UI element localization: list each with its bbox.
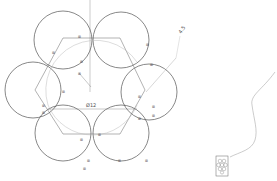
relation-tag[interactable]: ⊞ [87, 159, 90, 163]
spline-curve[interactable] [230, 72, 275, 157]
relation-tag[interactable]: ⊞ [146, 43, 149, 47]
circle-top-left[interactable] [34, 11, 92, 69]
diameter-dimension-label[interactable]: Ø12 [86, 102, 96, 108]
pattern-thumbnail[interactable] [216, 156, 228, 176]
circle-right[interactable] [121, 64, 177, 120]
offset-dimension-label[interactable]: 4.5 [177, 25, 186, 35]
relation-tag[interactable]: ⊞ [118, 159, 121, 163]
relation-tags: ⊞ ⊞ ⊞ ⊞ ⊞ ⊞ ⊞ ⊞ ⊞ ⊞ ⊞ ⊞ ⊞ ⊞ ⊞ ⊞ ⊞ ⊞ ⊞ [42, 35, 155, 171]
relation-tag[interactable]: ⊞ [42, 111, 45, 115]
sketch-canvas[interactable]: Ø12 4.5 ⊞ ⊞ ⊞ ⊞ ⊞ ⊞ ⊞ ⊞ ⊞ ⊞ ⊞ ⊞ ⊞ ⊞ ⊞ ⊞ … [0, 0, 277, 181]
relation-tag[interactable]: ⊞ [152, 105, 155, 109]
construction-arc-lower [48, 105, 137, 135]
relation-tag[interactable]: ⊞ [145, 159, 148, 163]
relation-tag[interactable]: ⊞ [98, 133, 101, 137]
relation-tag[interactable]: ⊞ [78, 35, 81, 39]
relation-tag[interactable]: ⊞ [80, 138, 83, 142]
relation-tag[interactable]: ⊞ [42, 104, 45, 108]
relation-tag[interactable]: ⊞ [78, 72, 81, 76]
circle-left[interactable] [5, 62, 61, 118]
relation-tag[interactable]: ⊞ [138, 95, 141, 99]
relation-tag[interactable]: ⊞ [52, 51, 55, 55]
construction-arc [46, 40, 137, 105]
offset-dimension-leader [176, 36, 180, 58]
relation-tag[interactable]: ⊞ [80, 60, 83, 64]
circle-bottom-right[interactable] [93, 105, 149, 161]
relation-tag[interactable]: ⊞ [83, 167, 86, 171]
relation-tag[interactable]: ⊞ [152, 114, 155, 118]
relation-tag[interactable]: ⊞ [138, 117, 141, 121]
relation-tag[interactable]: ⊞ [150, 63, 153, 67]
relation-tag[interactable]: ⊞ [62, 90, 65, 94]
